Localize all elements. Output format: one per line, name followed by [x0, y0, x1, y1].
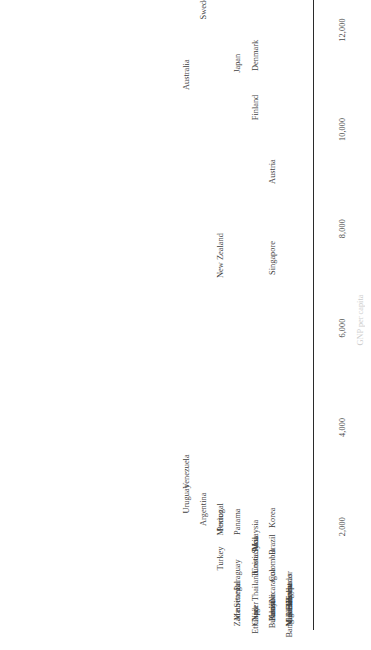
axis-tick-label: 10,000: [338, 118, 347, 141]
country-label: Nicaragua: [269, 568, 277, 602]
axis-tick-label: 6,000: [338, 318, 347, 337]
country-label: New Zealand: [217, 233, 225, 278]
axis-tick-label: 2,000: [338, 517, 347, 536]
country-label: Paraguay: [234, 559, 242, 590]
country-label: Costa Rica: [252, 537, 260, 574]
axis-title: GNP per capita: [356, 295, 365, 346]
country-label: Niger: [252, 602, 260, 621]
country-label: Korea: [269, 508, 277, 528]
axis-tick-label: 8,000: [338, 219, 347, 238]
country-label: Japan: [234, 54, 242, 73]
country-label: Turkey: [217, 547, 225, 571]
country-label: Denmark: [252, 40, 260, 71]
country-label: Panama: [234, 508, 242, 535]
country-label: Portugal: [217, 503, 225, 531]
country-label: Australia: [183, 59, 191, 90]
strip-plot: 2,0004,0006,0008,00010,00012,000 EgyptIn…: [0, 0, 371, 650]
value-axis-line: [313, 0, 314, 630]
country-label: Singapore: [269, 241, 277, 275]
country-label: Sweden: [200, 0, 208, 19]
country-label: Austria: [269, 159, 277, 184]
country-label: Thailand: [252, 571, 260, 601]
country-label: El Salvador: [286, 571, 294, 610]
country-label: Finland: [252, 95, 260, 121]
axis-tick-label: 4,000: [338, 418, 347, 437]
country-label: Argentina: [200, 493, 208, 526]
axis-tick-label: 12,000: [338, 18, 347, 41]
rotated-chart-canvas: 2,0004,0006,0008,00010,00012,000 EgyptIn…: [0, 0, 371, 650]
country-label: Mali: [286, 611, 294, 627]
country-label: Venezuela: [183, 454, 191, 488]
country-label: Brazil: [269, 534, 277, 554]
